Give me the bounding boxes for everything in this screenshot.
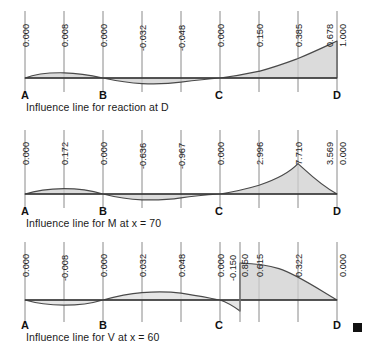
support-label-A: A <box>21 89 29 100</box>
support-label-C: C <box>215 89 223 100</box>
ordinate-labels: 0.000 0.008 0.000 -0.032 -0.048 0.000 0.… <box>21 24 348 51</box>
influence-line-figure: 0.000 0.008 0.000 -0.032 -0.048 0.000 0.… <box>0 0 368 350</box>
ordinate-label: -0.032 <box>138 25 148 51</box>
support-label-D: D <box>333 319 341 331</box>
support-label-B: B <box>99 89 107 100</box>
plot-shear-at-x-60: 0.000 -0.008 0.000 0.032 0.048 0.000 -0.… <box>0 230 368 333</box>
support-label-B: B <box>99 205 107 216</box>
ordinate-label: 0.032 <box>138 254 148 277</box>
ordinate-label: -0.048 <box>177 25 187 51</box>
ordinate-label: 0.150 <box>255 24 265 47</box>
plot-moment-at-x-70: 0.000 0.172 0.000 -0.636 -0.967 0.000 2.… <box>0 118 368 216</box>
ordinate-label: 3.569 <box>325 142 335 165</box>
ordinate-label: 0.000 <box>99 24 109 47</box>
ordinate-label: 0.000 <box>338 254 348 277</box>
ordinate-label: -0.150 <box>228 255 238 281</box>
ordinate-label: 0.000 <box>99 142 109 165</box>
ordinate-label: 0.048 <box>177 254 187 277</box>
panel-caption: Influence line for V at x = 60 <box>26 331 159 343</box>
ordinate-label: 0.322 <box>294 254 304 277</box>
ordinate-label: 2.996 <box>255 142 265 165</box>
support-label-C: C <box>215 205 223 216</box>
ordinate-label: 1.000 <box>338 24 348 47</box>
influence-curve-negative <box>25 292 240 311</box>
ordinate-label: 0.008 <box>60 24 70 47</box>
support-label-D: D <box>333 89 341 100</box>
ordinate-label: 0.850 <box>240 254 250 277</box>
ordinate-label: 0.000 <box>99 254 109 277</box>
ordinate-label: 0.678 <box>325 24 335 47</box>
ordinate-label: 0.172 <box>60 142 70 165</box>
ordinate-labels: 0.000 0.172 0.000 -0.636 -0.967 0.000 2.… <box>21 142 348 169</box>
ordinate-label: -0.008 <box>60 255 70 281</box>
support-label-A: A <box>21 205 29 216</box>
panel-caption: Influence line for reaction at D <box>26 101 169 113</box>
ordinate-label: -0.967 <box>177 143 187 169</box>
ordinate-label: 0.615 <box>255 254 265 277</box>
support-label-B: B <box>99 319 107 331</box>
ordinate-label: 0.000 <box>216 142 226 165</box>
ordinate-labels: 0.000 -0.008 0.000 0.032 0.048 0.000 -0.… <box>21 254 348 281</box>
ordinate-label: 7.710 <box>294 142 304 165</box>
support-label-C: C <box>215 319 223 331</box>
support-label-D: D <box>333 205 341 216</box>
ordinate-label: 0.000 <box>338 142 348 165</box>
ordinate-label: 0.385 <box>294 24 304 47</box>
panel-caption: Influence line for M at x = 70 <box>26 217 161 229</box>
ordinate-label: 0.000 <box>21 24 31 47</box>
support-label-A: A <box>21 319 29 331</box>
black-square-marker-icon <box>353 323 362 332</box>
plot-reaction-at-D: 0.000 0.008 0.000 -0.032 -0.048 0.000 0.… <box>0 0 368 100</box>
ordinate-label: 0.000 <box>216 24 226 47</box>
panel-reaction-at-D: 0.000 0.008 0.000 -0.032 -0.048 0.000 0.… <box>0 0 368 118</box>
ordinate-label: -0.636 <box>138 143 148 169</box>
ordinate-label: 0.000 <box>216 254 226 277</box>
panel-shear-at-x-60: 0.000 -0.008 0.000 0.032 0.048 0.000 -0.… <box>0 230 368 350</box>
ordinate-label: 0.000 <box>21 254 31 277</box>
panel-moment-at-x-70: 0.000 0.172 0.000 -0.636 -0.967 0.000 2.… <box>0 118 368 230</box>
ordinate-label: 0.000 <box>21 142 31 165</box>
